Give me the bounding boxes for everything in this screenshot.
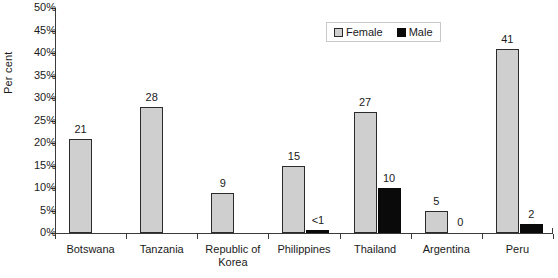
x-axis-label-philippines: Philippines (268, 243, 339, 256)
x-axis-label-tanzania: Tanzania (126, 243, 197, 256)
x-axis-tick-mark (55, 234, 56, 239)
x-axis-label-republic-of-korea: Republic ofKorea (197, 243, 268, 269)
bar-value-label: <1 (300, 215, 335, 226)
x-axis-label-line: Tanzania (126, 243, 197, 256)
x-axis-label-line: Argentina (411, 243, 482, 256)
y-axis-tick-label: 20% (12, 137, 56, 148)
x-axis-tick-mark (482, 234, 483, 239)
chart-legend: Female Male (326, 22, 441, 42)
x-axis-label-peru: Peru (482, 243, 553, 256)
x-axis-label-line: Philippines (268, 243, 339, 256)
bar-value-label: 15 (276, 151, 311, 162)
y-axis-tick: 25% (0, 121, 56, 122)
bar-value-label: 21 (63, 124, 98, 135)
y-axis-tick: 20% (0, 143, 56, 144)
y-axis-tick: 35% (0, 76, 56, 77)
bar-value-label: 10 (372, 173, 407, 184)
y-axis-tick: 30% (0, 98, 56, 99)
x-axis-tick-mark (126, 234, 127, 239)
bar-value-label: 5 (419, 196, 454, 207)
bar-value-label: 2 (514, 209, 549, 220)
x-axis-tick-mark (553, 234, 554, 239)
bar-value-label: 0 (443, 217, 478, 228)
bar-value-label: 9 (205, 178, 240, 189)
y-axis-tick: 10% (0, 188, 56, 189)
x-axis-label-line: Korea (197, 256, 268, 269)
female-swatch-icon (334, 28, 343, 37)
x-axis-label-line: Peru (482, 243, 553, 256)
y-axis-tick-label: 30% (12, 92, 56, 103)
y-axis-tick-label: 35% (12, 70, 56, 81)
y-axis-tick: 45% (0, 31, 56, 32)
y-axis-tick-label: 50% (12, 2, 56, 13)
y-axis-tick: 15% (0, 166, 56, 167)
legend-item-male[interactable]: Male (397, 27, 433, 38)
bar-value-label: 27 (348, 97, 383, 108)
bar-chart: Per cent 0%5%10%15%20%25%30%35%40%45%50%… (0, 0, 558, 278)
x-axis-tick-mark (197, 234, 198, 239)
x-axis-label-line: Republic of (197, 243, 268, 256)
legend-item-female[interactable]: Female (334, 27, 383, 38)
x-axis-tick-mark (411, 234, 412, 239)
bar-female-peru[interactable] (496, 49, 519, 234)
bar-female-tanzania[interactable] (140, 107, 163, 233)
x-axis-tick-mark (268, 234, 269, 239)
x-axis-label-thailand: Thailand (340, 243, 411, 256)
bar-male-peru[interactable] (520, 224, 543, 233)
bar-male-thailand[interactable] (378, 188, 401, 233)
bar-value-label: 28 (134, 92, 169, 103)
y-axis-tick-label: 15% (12, 160, 56, 171)
y-axis-tick-label: 10% (12, 182, 56, 193)
x-axis-label-argentina: Argentina (411, 243, 482, 256)
y-axis-tick-label: 40% (12, 47, 56, 58)
y-axis-tick-label: 5% (12, 205, 56, 216)
x-axis-tick-mark (340, 234, 341, 239)
x-axis-label-line: Botswana (55, 243, 126, 256)
legend-label-male: Male (409, 27, 433, 38)
legend-label-female: Female (346, 27, 383, 38)
x-axis-line (55, 233, 553, 234)
male-swatch-icon (397, 28, 406, 37)
y-axis-tick: 5% (0, 211, 56, 212)
plot-area: 2128915<1271050412 (55, 8, 553, 233)
y-axis-tick: 50% (0, 8, 56, 9)
y-axis-tick: 0% (0, 233, 56, 234)
y-axis-tick-label: 25% (12, 115, 56, 126)
y-axis-tick-label: 45% (12, 25, 56, 36)
x-axis-label-line: Thailand (340, 243, 411, 256)
x-axis-label-botswana: Botswana (55, 243, 126, 256)
y-axis-tick-label: 0% (12, 227, 56, 238)
bar-female-republic-of-korea[interactable] (211, 193, 234, 234)
bar-female-botswana[interactable] (69, 139, 92, 234)
y-axis-tick: 40% (0, 53, 56, 54)
bar-value-label: 41 (490, 34, 525, 45)
